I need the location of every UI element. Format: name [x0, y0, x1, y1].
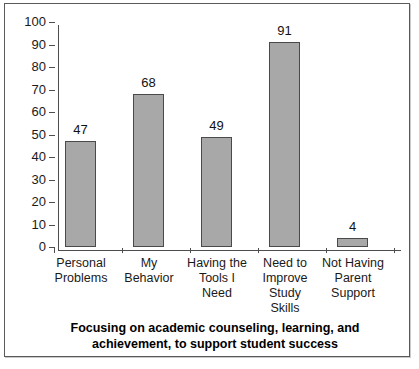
y-axis-tick-label: 30 — [2, 173, 46, 186]
y-axis-tick-label: 10 — [2, 218, 46, 231]
y-axis-tick — [49, 157, 55, 158]
category-label: Not HavingParentSupport — [319, 256, 387, 301]
y-axis-tick — [49, 67, 55, 68]
category-label-line: Need — [183, 286, 251, 301]
category-label-line: Parent — [319, 271, 387, 286]
y-axis-tick-label: 40 — [2, 150, 46, 163]
category-label-line: Not Having — [319, 256, 387, 271]
category-label: MyBehavior — [115, 256, 183, 286]
category-label-line: Skills — [251, 301, 319, 316]
category-label-line: My — [115, 256, 183, 271]
category-label: PersonalProblems — [47, 256, 115, 286]
x-axis-tick — [394, 248, 395, 253]
bar-value-label: 4 — [323, 220, 382, 233]
bar — [201, 137, 232, 247]
x-axis-tick — [190, 248, 191, 253]
y-axis-tick — [49, 112, 55, 113]
category-label-line: Need to — [251, 256, 319, 271]
y-axis-tick-label: 100 — [2, 15, 46, 28]
y-axis-tick — [49, 90, 55, 91]
x-axis-tick — [326, 248, 327, 253]
y-axis-line — [58, 25, 59, 251]
y-axis-tick-label: 90 — [2, 38, 46, 51]
y-axis-tick-label: 0 — [2, 240, 46, 253]
y-axis-tick — [49, 202, 55, 203]
bar — [133, 94, 164, 247]
category-label-line: Support — [319, 286, 387, 301]
y-axis-tick-label: 50 — [2, 128, 46, 141]
category-label-line: Problems — [47, 271, 115, 286]
y-axis-tick — [49, 45, 55, 46]
category-label-line: Behavior — [115, 271, 183, 286]
x-axis-tick — [258, 248, 259, 253]
x-axis-tick — [54, 248, 55, 253]
category-label-line: Improve — [251, 271, 319, 286]
chart-frame: 1009080706050403020100 476849914 Persona… — [4, 3, 410, 357]
bar — [337, 238, 368, 247]
chart-figure: 1009080706050403020100 476849914 Persona… — [0, 0, 419, 369]
category-label: Need toImproveStudySkills — [251, 256, 319, 316]
y-axis-tick — [49, 22, 55, 23]
y-axis-tick-label: 80 — [2, 60, 46, 73]
y-axis-tick-label: 20 — [2, 195, 46, 208]
bar-value-label: 68 — [119, 76, 178, 89]
y-axis-tick-label: 60 — [2, 105, 46, 118]
category-label-line: Study — [251, 286, 319, 301]
x-axis-line — [58, 250, 401, 251]
category-label-line: Tools I — [183, 271, 251, 286]
category-label-line: Personal — [47, 256, 115, 271]
bar-value-label: 49 — [187, 119, 246, 132]
bar-value-label: 47 — [51, 123, 110, 136]
category-label: Having theTools INeed — [183, 256, 251, 301]
bar-value-label: 91 — [255, 24, 314, 37]
y-axis-tick — [49, 225, 55, 226]
x-axis-tick — [122, 248, 123, 253]
y-axis-tick — [49, 180, 55, 181]
bar — [65, 141, 96, 247]
bar — [269, 42, 300, 247]
y-axis-tick-label: 70 — [2, 83, 46, 96]
chart-caption: Focusing on academic counseling, learnin… — [60, 320, 370, 352]
category-label-line: Having the — [183, 256, 251, 271]
